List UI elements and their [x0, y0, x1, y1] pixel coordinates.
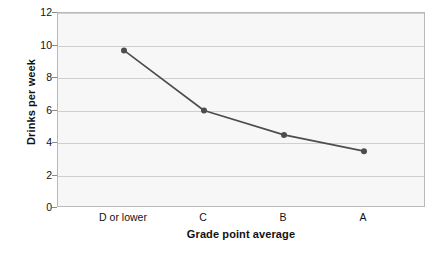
- y-axis-tick-label: 12: [30, 7, 52, 17]
- x-axis-tick-label: C: [199, 210, 207, 224]
- data-point-marker: [121, 47, 127, 53]
- x-axis-tick-label: A: [359, 210, 366, 224]
- line-chart: Drinks per week 024681012 D or lowerCBA …: [0, 0, 446, 254]
- y-axis-tick-label: 8: [30, 72, 52, 82]
- x-axis-tick-label: B: [279, 210, 286, 224]
- plot-area: [57, 12, 425, 207]
- y-axis-tick-label: 2: [30, 170, 52, 180]
- data-point-marker: [361, 148, 367, 154]
- y-axis-tick-labels: 024681012: [30, 0, 52, 254]
- y-axis-tick-label: 0: [30, 202, 52, 212]
- y-axis-tick-mark: [52, 207, 57, 208]
- data-point-marker: [281, 132, 287, 138]
- data-point-marker: [201, 108, 207, 114]
- y-axis-tick-label: 10: [30, 40, 52, 50]
- y-axis-tick-label: 6: [30, 105, 52, 115]
- data-series-layer: [58, 13, 426, 208]
- data-line: [124, 50, 364, 151]
- x-axis-tick-labels: D or lowerCBA: [57, 210, 425, 226]
- x-axis-tick-label: D or lower: [99, 210, 147, 224]
- y-axis-tick-label: 4: [30, 137, 52, 147]
- x-axis-title: Grade point average: [57, 228, 425, 240]
